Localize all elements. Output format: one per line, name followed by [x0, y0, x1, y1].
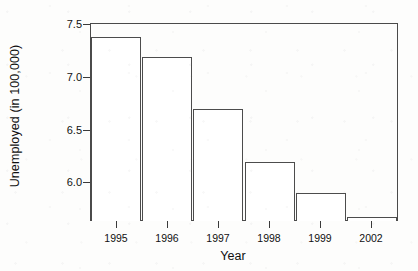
- y-tick-label: 6.0: [48, 176, 82, 188]
- y-tick-label: 7.0: [48, 71, 82, 83]
- bar-1999: [296, 193, 346, 221]
- y-tick-mark: [83, 24, 90, 25]
- x-tick-label: 1998: [257, 232, 280, 244]
- x-tick-label: 2002: [359, 232, 382, 244]
- x-tick-label: 1999: [308, 232, 331, 244]
- bar-chart-figure: Unemployed (in 100,000) 7.5 7.0 6.5 6.0 …: [0, 0, 418, 271]
- y-axis-title-text: Unemployed (in 100,000): [8, 45, 22, 188]
- x-axis-tick-marks: [0, 221, 418, 229]
- bar-1997: [193, 109, 243, 221]
- bars-layer: [90, 23, 398, 221]
- x-tick-mark: [218, 221, 219, 228]
- x-axis-tick-labels: 1995 1996 1997 1998 1999 2002: [0, 232, 418, 248]
- x-tick-mark: [167, 221, 168, 228]
- x-tick-mark: [269, 221, 270, 228]
- x-tick-label: 1996: [155, 232, 178, 244]
- bar-1996: [142, 57, 192, 221]
- x-tick-label: 1995: [104, 232, 127, 244]
- y-axis-title: Unemployed (in 100,000): [0, 0, 30, 232]
- y-tick-mark: [83, 130, 90, 131]
- y-tick-mark: [83, 77, 90, 78]
- y-tick-label: 6.5: [48, 124, 82, 136]
- x-tick-label: 1997: [206, 232, 229, 244]
- x-tick-mark: [320, 221, 321, 228]
- x-tick-mark: [371, 221, 372, 228]
- x-tick-mark: [116, 221, 117, 228]
- y-axis-tick-labels: 7.5 7.0 6.5 6.0: [40, 0, 82, 271]
- bar-1995: [91, 37, 141, 221]
- bar-1998: [245, 162, 295, 221]
- y-tick-mark: [83, 182, 90, 183]
- y-tick-label: 7.5: [48, 18, 82, 30]
- x-axis-title: Year: [0, 249, 418, 263]
- x-axis-title-text: Year: [172, 249, 245, 263]
